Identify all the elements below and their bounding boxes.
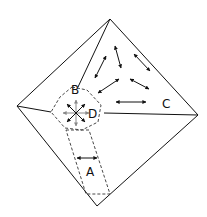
label-b: B <box>71 83 79 97</box>
outer-diamond <box>17 19 198 206</box>
boundary-left <box>17 106 51 112</box>
radial-arrows <box>63 100 89 126</box>
diagram-canvas: B D C A <box>0 0 207 217</box>
label-c: C <box>162 97 170 111</box>
region-c-arrows <box>95 46 150 102</box>
label-d: D <box>88 107 97 121</box>
label-a: A <box>86 165 95 179</box>
boundary-top <box>78 19 110 87</box>
strip-a <box>66 130 110 194</box>
boundary-right <box>104 113 198 115</box>
